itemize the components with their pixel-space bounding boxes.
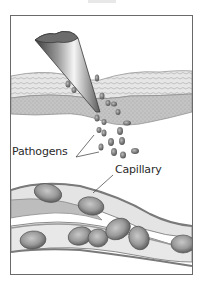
capillary-label: Capillary [115,163,162,176]
cropped-caption [88,0,116,3]
illustration-canvas [0,0,203,287]
pathogens-label: Pathogens [12,145,68,158]
pathogen-entry-illustration: Pathogens Capillary [0,0,203,287]
